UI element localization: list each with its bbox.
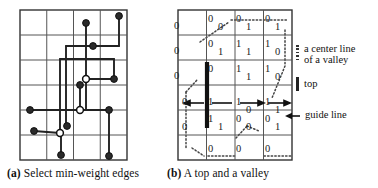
cell-br-r2c2: 1 <box>218 46 223 57</box>
caption-b-text: A top and a valley <box>184 167 269 179</box>
legend: a center line of a valley top guide line <box>296 44 378 136</box>
cell-tl-r5c3: 0 <box>236 113 241 124</box>
figure-container: (a) Select min-weight edges <box>0 0 378 188</box>
panel-a-grid <box>20 10 127 160</box>
cell-tl-r3c2: 0 <box>208 63 213 74</box>
caption-a-label: (a) <box>7 167 21 179</box>
caption-b-label: (b) <box>167 167 181 179</box>
cell-br-r1c3: 1 <box>246 21 251 32</box>
panel-a-select-min-weight-edges <box>0 0 150 168</box>
cell-tl-r4c2: 1 <box>208 96 213 107</box>
cell-br-r1c4: 1 <box>275 21 280 32</box>
thick-bar-icon <box>296 77 299 91</box>
cell-tl-r6c3: 0 <box>236 143 241 154</box>
panel-a-diagram <box>0 0 150 168</box>
cell-tl-r2c2: 0 <box>208 38 213 49</box>
cell-tl-r4c3: 1 <box>236 96 241 107</box>
cell-tl-r1c4: 0 <box>265 13 270 24</box>
cell-tl-r5c2: 1 <box>208 113 213 124</box>
panel-b-left-col-3: 0 <box>182 96 187 107</box>
legend-item-guide-line: guide line <box>284 109 347 122</box>
caption-panel-a: (a) Select min-weight edges <box>7 167 139 179</box>
cell-tl-r4c4: 1 <box>265 96 270 107</box>
cell-br-r5c4: 1 <box>275 121 280 132</box>
legend-center-line-1: a center line <box>304 43 355 54</box>
cell-tl-r6c4: 0 <box>265 143 270 154</box>
cell-br-r2c3: 1 <box>246 46 251 57</box>
cell-tl-r2c4: 1 <box>265 38 270 49</box>
cell-tl-r1c2: 0 <box>208 13 213 24</box>
cell-br-r5c2: 1 <box>218 121 223 132</box>
legend-item-center-line: a center line of a valley <box>296 44 355 65</box>
panel-b-left-col-1: 0 <box>174 45 179 56</box>
cell-tl-r1c3: 0 <box>236 13 241 24</box>
panel-b-left-col-2: 0 <box>174 70 179 81</box>
cell-br-r5c3: 0 <box>246 121 251 132</box>
dotted-line-icon <box>296 45 299 62</box>
panel-b-a-top-and-a-valley: 0 0 0 0 0 0 0 0 1 0 1 0 1 1 1 1 0 0 1 1 … <box>160 0 305 168</box>
caption-panel-b: (b) A top and a valley <box>167 167 269 179</box>
legend-item-top: top <box>296 77 317 91</box>
legend-label-top: top <box>304 77 317 90</box>
cell-br-r3c4: 0 <box>275 71 280 82</box>
legend-label-center-line: a center line of a valley <box>304 44 355 65</box>
panel-b-left-col-0: 0 <box>174 20 179 31</box>
cell-tl-r2c3: 1 <box>236 38 241 49</box>
left-arrow-icon <box>284 110 300 122</box>
cell-tl-r3c3: 1 <box>236 63 241 74</box>
caption-a-text: Select min-weight edges <box>24 167 139 179</box>
panel-b-digit-layer: 0 0 0 0 0 0 0 0 1 0 1 0 1 1 1 1 0 0 1 1 … <box>160 0 305 168</box>
panel-b-left-col-4: 0 <box>182 121 187 132</box>
cell-tl-r5c4: 0 <box>265 113 270 124</box>
cell-br-r4c4: 1 <box>275 104 280 115</box>
cell-tl-r6c2: 0 <box>208 143 213 154</box>
cell-br-r3c3: 1 <box>246 71 251 82</box>
cell-br-r4c3: 0 <box>246 104 251 115</box>
cell-tl-r3c4: 1 <box>265 63 270 74</box>
cell-br-r1c2: 0 <box>218 21 223 32</box>
legend-label-guide-line: guide line <box>305 109 347 121</box>
legend-center-line-2: of a valley <box>304 55 355 66</box>
cell-br-r2c4: 0 <box>275 46 280 57</box>
